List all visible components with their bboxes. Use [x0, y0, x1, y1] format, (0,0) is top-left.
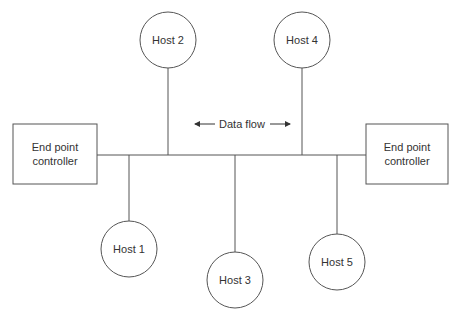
host-5: Host 5 [309, 234, 365, 290]
host-1-label: Host 1 [113, 243, 145, 255]
bus-diagram: End point controller End point controlle… [0, 0, 456, 318]
host-2-label: Host 2 [152, 34, 184, 46]
host-4-label: Host 4 [286, 34, 318, 46]
right-controller: End point controller [366, 124, 448, 184]
data-flow-label: Data flow [219, 118, 265, 130]
left-controller-line1: End point [32, 141, 78, 153]
right-controller-line1: End point [384, 141, 430, 153]
left-controller: End point controller [13, 124, 97, 184]
host-1: Host 1 [101, 221, 157, 277]
host-5-label: Host 5 [321, 256, 353, 268]
left-controller-line2: controller [32, 155, 78, 167]
data-flow-indicator: Data flow [195, 118, 290, 130]
host-4: Host 4 [274, 12, 330, 68]
right-controller-line2: controller [384, 155, 430, 167]
host-2: Host 2 [140, 12, 196, 68]
host-3: Host 3 [207, 252, 263, 308]
host-3-label: Host 3 [219, 274, 251, 286]
